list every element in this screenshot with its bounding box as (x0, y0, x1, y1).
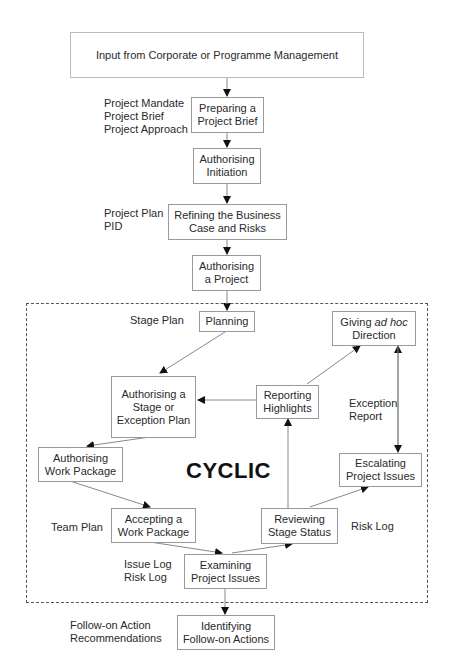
process-label: Preparing a (198, 102, 258, 115)
process-label: Identifying (183, 620, 269, 633)
process-label: Reviewing (268, 513, 331, 526)
process-label: Stage or (117, 401, 190, 414)
process-identifying-follow-on-actions[interactable]: IdentifyingFollow-on Actions (177, 615, 275, 650)
process-label: Accepting a (118, 513, 189, 526)
process-label: Authorising a (117, 388, 190, 401)
process-reviewing-stage-status[interactable]: ReviewingStage Status (261, 508, 338, 544)
annotation-follow-on: Follow-on Action Recommendations (70, 619, 162, 645)
process-label: Stage Status (268, 526, 331, 539)
process-label: Highlights (263, 402, 311, 415)
process-authorising-stage[interactable]: Authorising aStage orException Plan (111, 376, 196, 438)
process-label: Refining the Business (174, 209, 280, 222)
process-authorising-initiation[interactable]: AuthorisingInitiation (193, 148, 261, 184)
process-label: Project Brief (198, 115, 258, 128)
input-label: Input from Corporate or Programme Manage… (96, 49, 338, 62)
process-label: Case and Risks (174, 222, 280, 235)
annotation-exception-report: Exception Report (349, 397, 397, 423)
annotation-risk-log: Risk Log (351, 520, 394, 533)
process-giving-ad-hoc-direction[interactable]: Giving ad hoc Direction (332, 311, 416, 346)
annotation-brief-products: Project Mandate Project Brief Project Ap… (104, 97, 188, 136)
process-label: a Project (199, 273, 254, 286)
annotation-team-plan: Team Plan (51, 521, 103, 534)
process-label: Exception Plan (117, 414, 190, 427)
process-label: Initiation (199, 166, 254, 179)
annotation-issue-logs: Issue Log Risk Log (124, 558, 172, 584)
process-reporting-highlights[interactable]: ReportingHighlights (256, 385, 319, 419)
process-authorising-work-package[interactable]: AuthorisingWork Package (38, 447, 123, 482)
process-examining-project-issues[interactable]: ExaminingProject Issues (184, 554, 267, 589)
process-label-italic: ad hoc (375, 316, 408, 328)
cyclic-label: CYCLIC (186, 458, 271, 484)
process-label: Escalating (346, 457, 415, 470)
process-label: Authorising (45, 452, 116, 465)
process-label: Project Issues (346, 470, 415, 483)
process-escalating-project-issues[interactable]: EscalatingProject Issues (339, 453, 422, 487)
input-from-corporate-box[interactable]: Input from Corporate or Programme Manage… (70, 32, 364, 78)
process-preparing-project-brief[interactable]: Preparing aProject Brief (191, 97, 264, 133)
process-label: Work Package (118, 526, 189, 539)
process-label: Examining (191, 559, 260, 572)
process-label: Reporting (263, 389, 311, 402)
process-label: Authorising (199, 153, 254, 166)
process-label: Giving (340, 316, 374, 328)
process-accepting-work-package[interactable]: Accepting aWork Package (111, 508, 196, 543)
process-authorising-project[interactable]: Authorisinga Project (192, 255, 261, 291)
process-label: Work Package (45, 465, 116, 478)
process-planning[interactable]: Planning (199, 311, 255, 332)
process-label: Planning (206, 315, 249, 328)
annotation-refining-products: Project Plan PID (104, 207, 163, 233)
process-label: Authorising (199, 260, 254, 273)
process-label: Direction (340, 329, 407, 342)
process-refining-business-case[interactable]: Refining the BusinessCase and Risks (168, 204, 287, 240)
process-label: Project Issues (191, 572, 260, 585)
annotation-stage-plan: Stage Plan (130, 314, 184, 327)
process-label: Follow-on Actions (183, 633, 269, 646)
